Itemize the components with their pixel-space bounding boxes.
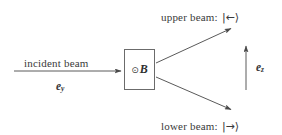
incident-beam-label: incident beam — [24, 58, 89, 69]
lower-beam-ket: |→⟩ — [222, 120, 239, 133]
figure-canvas: ⊙ B upper beam: |←⟩ lower beam: |→⟩ inci… — [0, 0, 282, 135]
magnetic-field-symbol: B — [140, 62, 148, 77]
upper-beam-label-text: upper beam: — [161, 11, 218, 23]
ez-subscript: z — [261, 65, 264, 74]
ey-subscript: y — [61, 84, 64, 93]
magnetic-field-box-content: ⊙ B — [125, 50, 154, 89]
magnetic-field-box: ⊙ B — [124, 49, 155, 90]
lower-beam-label-text: lower beam: — [161, 120, 218, 132]
lower-beam-arrow — [156, 77, 231, 110]
lower-beam-label: lower beam: |→⟩ — [161, 117, 239, 133]
ez-unit-vector-label: ez — [256, 62, 264, 74]
upper-beam-ket: |←⟩ — [222, 11, 239, 24]
upper-beam-arrow — [156, 29, 231, 64]
upper-beam-label: upper beam: |←⟩ — [161, 8, 239, 24]
ey-unit-vector-label: ey — [56, 81, 64, 93]
out-of-page-dot-icon: ⊙ — [131, 65, 139, 75]
